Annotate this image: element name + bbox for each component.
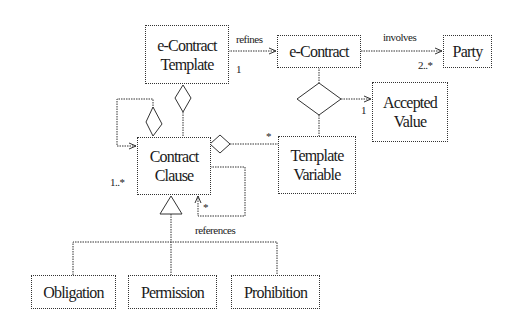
aggregation-diamond-icon (210, 135, 230, 153)
involves-multiplicity: 2..* (418, 59, 433, 71)
class-name: Obligation (43, 283, 103, 302)
class-permission[interactable]: Permission (128, 275, 217, 309)
aggregation-diamond-icon (146, 107, 162, 136)
class-contract-clause[interactable]: Contract Clause (137, 137, 211, 195)
class-name: Party (453, 42, 483, 61)
class-obligation[interactable]: Obligation (31, 275, 116, 309)
class-econtract-template[interactable]: e-Contract Template (145, 25, 229, 84)
template-variable-multiplicity: * (266, 130, 271, 142)
ternary-association-diamond-icon (297, 83, 341, 115)
references-multiplicity: * (203, 201, 208, 213)
accepted-value-multiplicity: 1 (361, 104, 366, 116)
refines-multiplicity: 1 (236, 63, 241, 75)
references-label: references (195, 224, 235, 236)
class-name: Contract (150, 147, 199, 166)
aggregation-diamond-icon (175, 85, 191, 112)
class-name: Variable (294, 165, 341, 184)
refines-label: refines (236, 33, 262, 45)
class-prohibition[interactable]: Prohibition (231, 275, 320, 309)
class-name: Permission (141, 283, 204, 302)
class-econtract[interactable]: e-Contract (277, 35, 361, 68)
class-name: Prohibition (244, 283, 307, 302)
generalization-triangle-icon (160, 196, 182, 214)
involves-label: involves (383, 31, 416, 43)
class-name: Accepted (383, 93, 437, 112)
generalization-branches (73, 242, 277, 275)
class-name: Template (161, 55, 214, 74)
class-name: Template (291, 146, 344, 165)
class-party[interactable]: Party (443, 35, 492, 68)
class-accepted-value[interactable]: Accepted Value (372, 82, 448, 142)
class-name: e-Contract (157, 36, 217, 55)
contract-clause-multiplicity: 1..* (110, 176, 125, 188)
class-name: e-Contract (289, 42, 349, 61)
class-template-variable[interactable]: Template Variable (278, 136, 356, 194)
class-name: Clause (155, 166, 194, 185)
class-name: Value (394, 112, 426, 131)
